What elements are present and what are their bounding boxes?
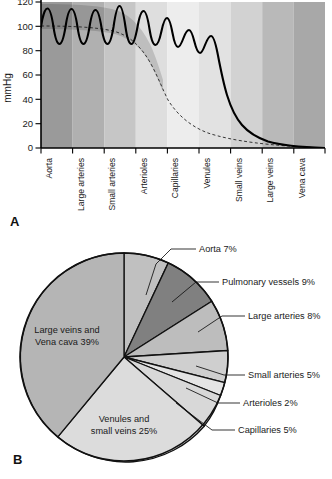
cat-label-capillaries: Capillaries bbox=[170, 158, 180, 198]
panel-a-pressure-chart: 0 20 40 60 80 100 120 mmHg Aorta Large a bbox=[0, 0, 332, 240]
callout-label-pulmonary-vessels: Pulmonary vessels 9% bbox=[222, 277, 315, 287]
cat-label-small-arteries: Small arteries bbox=[107, 158, 117, 211]
cat-label-vena-cava: Vena cava bbox=[297, 158, 307, 198]
band-venules bbox=[199, 2, 231, 148]
y-axis-title: mmHg bbox=[2, 73, 13, 102]
y-tick-20: 20 bbox=[22, 118, 33, 129]
y-axis-ticks bbox=[36, 2, 42, 148]
band-vena-cava bbox=[294, 2, 325, 148]
cat-label-large-arteries: Large arteries bbox=[76, 158, 86, 211]
panel-a-letter: A bbox=[10, 214, 19, 229]
y-tick-40: 40 bbox=[22, 94, 33, 105]
band-large-veins bbox=[262, 2, 294, 148]
band-small-veins bbox=[231, 2, 263, 148]
callout-label-capillaries: Capillaries 5% bbox=[238, 425, 297, 435]
inner-label-venules-line2: small veins 25% bbox=[91, 426, 157, 436]
inner-label-large-veins-line2: Vena cava 39% bbox=[35, 337, 99, 347]
panel-b-volume-pie-chart: Aorta 7% Pulmonary vessels 9% Large arte… bbox=[0, 240, 332, 479]
callout-label-small-arteries: Small arteries 5% bbox=[248, 370, 320, 380]
y-tick-0: 0 bbox=[28, 142, 33, 153]
cat-label-arterioles: Arterioles bbox=[139, 158, 149, 194]
inner-label-venules-line1: Venules and bbox=[99, 414, 150, 424]
callout-label-aorta: Aorta 7% bbox=[199, 244, 237, 254]
inner-label-large-veins-line1: Large veins and bbox=[34, 325, 99, 335]
figure-container: 0 20 40 60 80 100 120 mmHg Aorta Large a bbox=[0, 0, 332, 479]
x-axis-category-labels: Aorta Large arteries Small arteries Arte… bbox=[44, 158, 307, 211]
cat-label-small-veins: Small veins bbox=[234, 158, 244, 202]
y-axis-tick-labels: 0 20 40 60 80 100 120 bbox=[17, 0, 33, 153]
cat-label-venules: Venules bbox=[202, 158, 212, 189]
cat-label-aorta: Aorta bbox=[44, 158, 54, 179]
y-tick-120: 120 bbox=[17, 0, 33, 7]
y-tick-100: 100 bbox=[17, 21, 33, 32]
x-axis-ticks bbox=[41, 148, 325, 154]
callout-label-large-arteries: Large arteries 8% bbox=[248, 311, 321, 321]
cat-label-large-veins: Large veins bbox=[265, 158, 275, 202]
y-tick-80: 80 bbox=[22, 45, 33, 56]
callout-label-arterioles: Arterioles 2% bbox=[243, 398, 298, 408]
panel-b-letter: B bbox=[13, 452, 22, 467]
y-tick-60: 60 bbox=[22, 69, 33, 80]
